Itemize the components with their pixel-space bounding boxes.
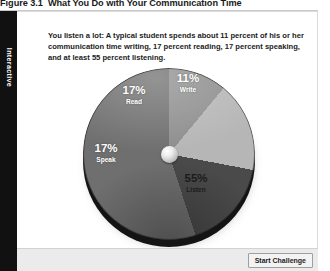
figure-number: Figure 3.1 (0, 0, 43, 8)
intro-paragraph: You listen a lot: A typical student spen… (48, 30, 306, 64)
start-challenge-button[interactable]: Start Challenge (248, 253, 313, 268)
pie-label-listen-name: Listen (171, 185, 221, 194)
pie-label-write-value: 11% (165, 72, 211, 84)
pie-label-read-value: 17% (111, 84, 157, 96)
interactive-side-tab-label: Interactive (4, 48, 13, 87)
figure-caption: Figure 3.1What You Do with Your Communic… (0, 0, 330, 10)
pie-label-read: 17% Read (111, 84, 157, 106)
interactive-panel: You listen a lot: A typical student spen… (0, 11, 318, 271)
pie-chart: 11% Write 17% Read 17% Speak 55% Listen (55, 64, 305, 249)
pie-label-speak: 17% Speak (83, 142, 129, 164)
pie-label-write-name: Write (165, 85, 211, 94)
pie-label-read-name: Read (111, 97, 157, 106)
panel-footer: Start Challenge (17, 248, 318, 271)
pie-label-speak-name: Speak (83, 155, 129, 164)
pie-center-hub-icon (161, 146, 178, 163)
figure-screenshot: Figure 3.1What You Do with Your Communic… (0, 0, 330, 271)
pie-label-speak-value: 17% (83, 142, 129, 154)
pie-label-write: 11% Write (165, 72, 211, 94)
pie-label-listen: 55% Listen (171, 172, 221, 194)
pie-label-listen-value: 55% (171, 172, 221, 184)
page-title: What You Do with Your Communication Time (48, 0, 242, 8)
interactive-side-tab[interactable]: Interactive (0, 11, 17, 271)
